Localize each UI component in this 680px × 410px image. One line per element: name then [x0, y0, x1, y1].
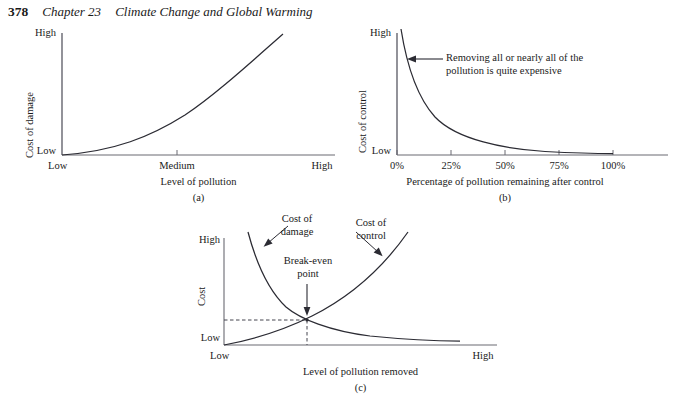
- panel-c-label-cost-of-control-line2: control: [340, 229, 402, 242]
- panel-c-x-tick-low: Low: [210, 350, 229, 361]
- page-header: 378 Chapter 23 Climate Change and Global…: [8, 4, 313, 20]
- panel-b-annotation: Removing all or nearly all of the pollut…: [446, 51, 583, 78]
- break-even-point-marker: [305, 318, 308, 321]
- panel-a-plot: [0, 25, 345, 170]
- panel-c-break-even-line2: point: [264, 267, 352, 280]
- panel-c-label-cost-of-damage-line1: Cost of: [264, 212, 330, 225]
- panel-b-x-tick-75: 75%: [537, 160, 581, 171]
- panel-c-label-cost-of-control: Cost of control: [340, 216, 402, 242]
- page-number: 378: [8, 4, 28, 20]
- panel-b-annotation-line1: Removing all or nearly all of the: [446, 51, 583, 64]
- panel-b-x-tick-50: 50%: [483, 160, 527, 171]
- arrow-down-icon: [304, 307, 311, 316]
- panel-c-label-cost-of-damage-line2: damage: [264, 225, 330, 238]
- panel-b-x-tick-100: 100%: [588, 160, 638, 171]
- panel-b-x-axis-title: Percentage of pollution remaining after …: [375, 176, 635, 188]
- panel-b-x-tick-0: 0%: [377, 160, 417, 171]
- panel-a-x-axis-title: Level of pollution: [62, 176, 335, 188]
- panel-b-annotation-line2: pollution is quite expensive: [446, 64, 583, 77]
- chapter-title: Climate Change and Global Warming: [115, 4, 312, 20]
- panel-c-label-cost-of-control-line1: Cost of: [340, 216, 402, 229]
- panel-c-x-tick-high: High: [460, 350, 506, 361]
- panel-a-x-tick-medium: Medium: [137, 160, 217, 171]
- panel-a: Cost of damage High Low Low Medium High …: [0, 25, 345, 205]
- panel-c-break-even-annotation: Break-even point: [264, 254, 352, 281]
- panel-c: Cost High Low Cost of damage Cost of con…: [160, 210, 520, 410]
- panel-c-break-even-line1: Break-even: [264, 254, 352, 267]
- panel-c-caption: (c): [224, 382, 497, 393]
- panel-b-x-tick-25: 25%: [429, 160, 473, 171]
- panel-c-label-cost-of-damage: Cost of damage: [264, 212, 330, 238]
- panel-a-x-tick-low: Low: [48, 160, 67, 171]
- panel-a-caption: (a): [62, 192, 335, 203]
- panel-c-x-axis-title: Level of pollution removed: [224, 366, 497, 378]
- chapter-label: Chapter 23: [42, 4, 101, 20]
- panel-b: Cost of control High Low Removing all or…: [335, 25, 680, 205]
- panel-b-caption: (b): [375, 192, 635, 203]
- panel-b-plot: [335, 25, 680, 170]
